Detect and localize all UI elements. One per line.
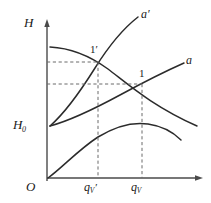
pump-head-capacity-curve (50, 47, 197, 126)
x-axis-arrowhead (195, 175, 203, 180)
operating-point-label-1: 1 (139, 68, 145, 79)
operating-point-label-1-prime: 1′ (90, 44, 98, 55)
y-axis-baseline-label: H0 (13, 118, 26, 131)
origin-label: O (26, 180, 35, 193)
curve-label-a-prime: a′ (141, 8, 150, 20)
qv-prime-mark: ′ (95, 181, 97, 193)
h0-subscript: 0 (22, 125, 26, 134)
y-axis-arrowhead (44, 19, 49, 27)
x-tick-label-qv: qV (131, 181, 142, 193)
axis-group (44, 19, 203, 181)
y-axis-label: H (24, 16, 33, 29)
system-resistance-curve-a (50, 63, 184, 126)
x-tick-label-qv-prime: qV′ (84, 181, 97, 193)
efficiency-curve (48, 124, 181, 178)
h0-base: H (13, 117, 22, 132)
qv-prime-subscript: V (90, 186, 95, 195)
diagram-canvas (0, 0, 211, 203)
curve-label-a: a (186, 54, 192, 66)
figure-container: H H0 O a′ a 1′ 1 qV′ qV (0, 0, 211, 203)
curve-group (48, 17, 197, 178)
system-resistance-curve-a-prime (50, 17, 138, 126)
qv-subscript: V (137, 186, 142, 195)
projection-lines-group (47, 62, 142, 178)
